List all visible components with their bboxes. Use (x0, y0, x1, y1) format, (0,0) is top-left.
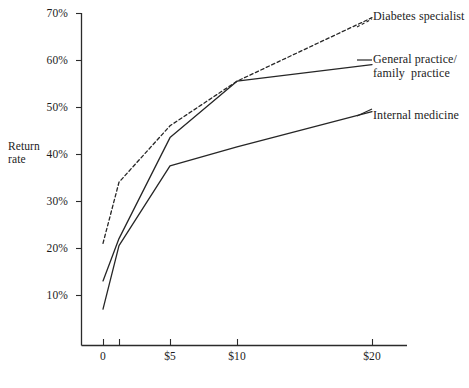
return-rate-line-chart: 70% 60% 50% 40% 30% 20% 10% Return rate … (0, 0, 469, 388)
series-label-general-practice-line2: family practice (373, 66, 450, 81)
y-tick-label-60: 60% (22, 54, 68, 66)
series-line-internal-medicine (103, 112, 372, 309)
y-tick-label-20: 20% (22, 242, 68, 254)
x-axis-ticks (104, 339, 373, 346)
y-axis-title-line2: rate (8, 153, 66, 167)
series-line-general-practice (103, 65, 372, 281)
y-axis-ticks (76, 14, 82, 296)
series-label-general-practice-line1: General practice/ (373, 52, 457, 67)
x-tick-label-0: 0 (81, 350, 125, 362)
y-tick-label-10: 10% (22, 289, 68, 301)
y-tick-label-70: 70% (22, 7, 68, 19)
series-line-diabetes-specialist (103, 18, 372, 244)
y-tick-label-50: 50% (22, 101, 68, 113)
y-axis-title-line1: Return (8, 140, 66, 154)
x-tick-label-10: $10 (215, 350, 259, 362)
series-label-diabetes-specialist: Diabetes specialist (373, 9, 465, 24)
x-tick-label-5: $5 (148, 350, 192, 362)
x-tick-label-20: $20 (350, 350, 394, 362)
y-tick-label-30: 30% (22, 195, 68, 207)
series-label-internal-medicine: Internal medicine (373, 108, 459, 123)
